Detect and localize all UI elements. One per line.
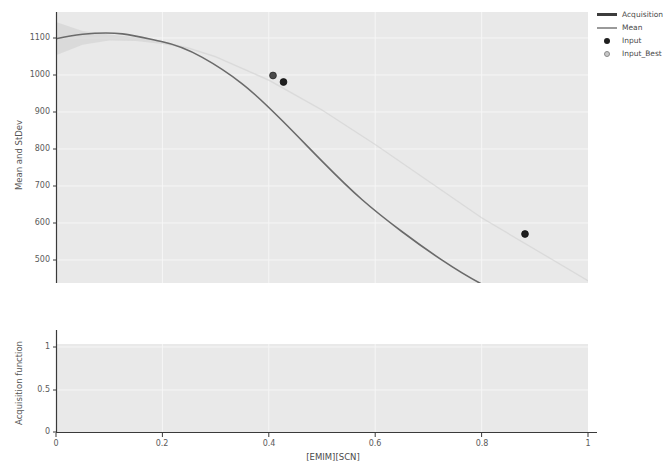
xtick-label-0-8: 0.8 [472, 439, 492, 448]
legend-item-acquisition[interactable]: Acquisition [596, 8, 666, 21]
legend-item-input[interactable]: Input [596, 34, 666, 47]
xtick-label-0-4: 0.4 [259, 439, 279, 448]
top-ytick-label-1100: 1100 [10, 33, 50, 42]
legend-item-mean[interactable]: Mean [596, 21, 666, 34]
xaxis-title: [EMIM][SCN] [0, 452, 666, 462]
legend-label-input: Input [622, 34, 641, 47]
legend-label-acquisition: Acquisition [622, 8, 663, 21]
top-panel-plot [0, 0, 666, 475]
top-ytick-label-600: 600 [10, 218, 50, 227]
input-best-dot-icon [596, 47, 618, 60]
legend-label-mean: Mean [622, 21, 642, 34]
bottom-ytick-label-0: 0 [10, 427, 50, 436]
legend: Acquisition Mean Input Input_Best [596, 8, 666, 60]
top-panel-ylabel: Mean and StDev [14, 120, 24, 190]
top-ytick-label-500: 500 [10, 255, 50, 264]
mean-line-icon [596, 21, 618, 34]
input-dot-icon [596, 34, 618, 47]
acquisition-line-icon [596, 8, 618, 21]
xtick-label-0-6: 0.6 [365, 439, 385, 448]
bottom-panel-ylabel: Acquisition function [14, 341, 24, 425]
xtick-label-0-2: 0.2 [152, 439, 172, 448]
legend-item-input-best[interactable]: Input_Best [596, 47, 666, 60]
xtick-label-0: 0 [46, 439, 66, 448]
legend-label-input-best: Input_Best [622, 47, 662, 60]
top-ytick-label-900: 900 [10, 107, 50, 116]
top-ytick-label-1000: 1000 [10, 70, 50, 79]
bayesian-optimization-figure: 1100 1000 900 800 700 600 500 Mean and S… [0, 0, 666, 475]
xtick-label-1: 1 [578, 439, 598, 448]
